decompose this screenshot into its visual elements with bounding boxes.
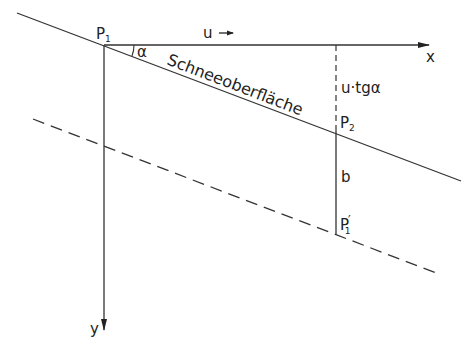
alpha-label: α: [137, 43, 147, 61]
snow-surface-line: [17, 13, 461, 181]
snow-surface-diagram: P1 u x y α Schneeoberfläche u·tgα P2 b P…: [0, 0, 470, 345]
p1-prime-label: P′1: [340, 213, 351, 236]
y-axis-label: y: [90, 320, 99, 338]
b-label: b: [341, 168, 351, 186]
x-axis-label: x: [426, 48, 435, 66]
alpha-angle-arc: [132, 45, 134, 56]
u-label: u: [203, 24, 213, 42]
dashed-parallel-line: [33, 119, 439, 274]
p2-label: P2: [340, 114, 355, 133]
snow-surface-label: Schneeoberfläche: [165, 50, 306, 119]
p1-label: P1: [96, 25, 111, 44]
u-tg-alpha-label: u·tgα: [341, 79, 381, 97]
